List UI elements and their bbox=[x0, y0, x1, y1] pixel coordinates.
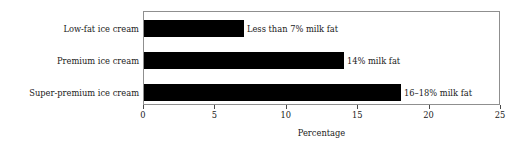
tick-label: 10 bbox=[281, 110, 292, 120]
tick-mark bbox=[357, 105, 358, 109]
bar-low-fat bbox=[144, 20, 244, 37]
tick-label: 25 bbox=[495, 110, 506, 120]
bar-value-label: 14% milk fat bbox=[347, 56, 400, 66]
tick-mark bbox=[429, 105, 430, 109]
tick-mark bbox=[214, 105, 215, 109]
tick-mark bbox=[143, 105, 144, 109]
category-label: Premium ice cream bbox=[8, 56, 139, 66]
bar-premium bbox=[144, 52, 344, 69]
bar-super-premium bbox=[144, 84, 401, 101]
category-label: Super-premium ice cream bbox=[8, 88, 139, 98]
x-axis-title-text: Percentage bbox=[298, 128, 346, 138]
x-axis-title: Percentage bbox=[0, 128, 523, 138]
tick-label: 15 bbox=[352, 110, 363, 120]
tick-mark bbox=[286, 105, 287, 109]
tick-label: 5 bbox=[212, 110, 217, 120]
category-label: Low-fat ice cream bbox=[8, 24, 139, 34]
bar-chart: Low-fat ice cream Premium ice cream Supe… bbox=[0, 0, 523, 151]
tick-label: 0 bbox=[140, 110, 145, 120]
tick-label: 20 bbox=[423, 110, 434, 120]
tick-mark bbox=[500, 105, 501, 109]
bar-value-label: Less than 7% milk fat bbox=[247, 24, 338, 34]
bar-value-label: 16–18% milk fat bbox=[404, 88, 472, 98]
